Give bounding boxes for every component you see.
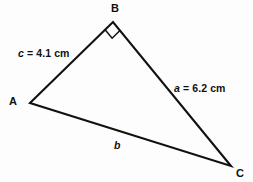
vertex-label-b: B — [111, 3, 119, 14]
side-var-b: b — [114, 139, 121, 151]
vertex-label-c: C — [236, 168, 244, 179]
side-label-c: c = 4.1 cm — [18, 48, 70, 59]
triangle-path — [30, 22, 231, 166]
triangle-outline — [30, 22, 231, 166]
side-value-a: = 6.2 cm — [180, 82, 226, 94]
side-label-a: a = 6.2 cm — [174, 83, 226, 94]
right-angle-square-icon — [105, 30, 120, 39]
vertex-label-a: A — [9, 96, 17, 107]
right-angle-marker — [105, 30, 120, 39]
side-label-b: b — [114, 140, 121, 151]
side-value-c: = 4.1 cm — [24, 47, 70, 59]
triangle-figure: A B C c = 4.1 cm a = 6.2 cm b — [0, 0, 253, 182]
